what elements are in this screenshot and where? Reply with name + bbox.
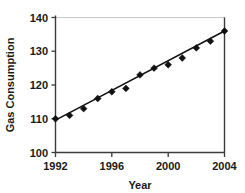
plot-area-border [56, 18, 225, 153]
x-tick-label-2000: 2000 [156, 160, 180, 172]
data-point-marker [123, 85, 130, 92]
data-point-marker [207, 38, 214, 45]
y-axis-title: Gas Consumption [4, 37, 16, 132]
y-tick-label-110: 110 [30, 113, 48, 125]
y-tick-label-100: 100 [30, 147, 48, 159]
data-point-marker [52, 115, 59, 122]
data-point-marker [66, 112, 73, 119]
x-tick-label-1992: 1992 [43, 160, 67, 172]
gas-consumption-chart-figure: 140 130 120 110 100 1992 1996 2000 2004 … [0, 0, 245, 193]
x-tick-label-2004: 2004 [212, 160, 237, 172]
data-series-layer [52, 28, 228, 123]
y-tick-label-120: 120 [30, 79, 48, 91]
y-tick-label-140: 140 [30, 12, 48, 24]
chart-canvas: 140 130 120 110 100 1992 1996 2000 2004 … [0, 0, 245, 193]
x-tick-label-1996: 1996 [100, 160, 124, 172]
x-axis-title: Year [128, 179, 152, 191]
data-point-marker [193, 44, 200, 51]
data-point-marker [221, 28, 228, 35]
data-point-marker [179, 55, 186, 62]
data-point-marker [151, 65, 158, 72]
y-tick-label-130: 130 [30, 45, 48, 57]
